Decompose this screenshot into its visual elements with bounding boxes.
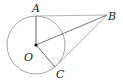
tangent-ab [36,15,107,16]
label-c: C [56,68,65,81]
center-point-o [34,43,37,46]
radius-oc [36,45,55,67]
geometry-diagram: A B C O [0,0,123,82]
label-b: B [107,10,116,23]
label-a: A [31,2,40,15]
tangent-bc [55,15,107,67]
label-o: O [24,51,33,64]
segment-ob [36,15,107,45]
